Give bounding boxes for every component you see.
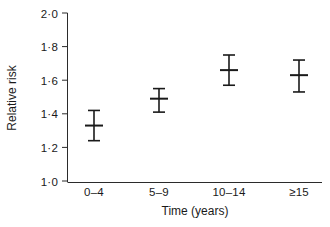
error-bar-0-4	[85, 110, 103, 140]
error-bar-10-14	[220, 55, 238, 85]
x-tick-label-5-9: 5–9	[149, 186, 169, 198]
error-bar-5-9	[150, 89, 168, 113]
y-tick-label-2-0: 2·0	[41, 8, 58, 20]
x-tick-label-ge15: ≥15	[289, 186, 309, 198]
y-tick-label-1-8: 1·8	[41, 41, 58, 53]
y-tick-label-1-6: 1·6	[41, 75, 58, 87]
y-tick-label-1-4: 1·4	[41, 108, 59, 120]
y-tick-label-1-2: 1·2	[41, 142, 58, 154]
y-tick-label-1-0: 1·0	[41, 176, 58, 188]
y-axis-title: Relative risk	[5, 64, 19, 130]
chart-canvas: 2·0 1·8 1·6 1·4 1·2 1·0 Relative risk 0–…	[0, 0, 330, 227]
error-bar-ge15	[290, 60, 308, 92]
chart-figure: 2·0 1·8 1·6 1·4 1·2 1·0 Relative risk 0–…	[0, 0, 330, 227]
x-tick-label-0-4: 0–4	[84, 186, 104, 198]
x-axis-title: Time (years)	[162, 204, 229, 218]
x-tick-label-10-14: 10–14	[213, 186, 246, 198]
